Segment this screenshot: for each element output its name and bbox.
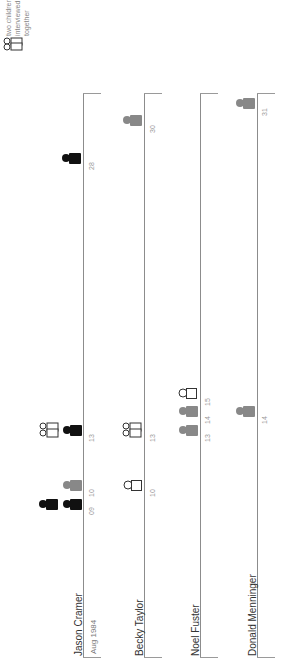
axis-becky — [144, 93, 145, 658]
axis-jason — [83, 93, 84, 658]
row-name-jason: Jason Cramer — [73, 593, 84, 656]
day-label: 13 — [204, 434, 211, 442]
person-gray-icon — [235, 405, 255, 417]
axis-tick — [257, 657, 275, 658]
axis-tick — [144, 657, 162, 658]
axis-tick — [200, 93, 218, 94]
person-gray-icon — [178, 405, 198, 417]
person-black-icon — [62, 498, 82, 510]
day-label: 10 — [88, 489, 95, 497]
day-label: 15 — [204, 398, 211, 406]
two-person-outline-icon — [39, 422, 59, 438]
axis-tick — [144, 93, 162, 94]
person-black-icon — [61, 152, 81, 164]
day-label: 14 — [261, 416, 268, 424]
day-label: 09 — [88, 507, 95, 515]
two-person-outline-icon — [122, 422, 142, 438]
row-name-donald: Donald Menninger — [247, 574, 258, 656]
axis-tick — [257, 93, 275, 94]
day-label: 28 — [88, 162, 95, 170]
person-gray-icon — [178, 424, 198, 436]
row-name-becky: Becky Taylor — [134, 599, 145, 656]
day-label: 10 — [149, 489, 156, 497]
two-person-outline-icon — [3, 37, 23, 51]
axis-noel — [200, 93, 201, 658]
person-outline-icon — [178, 387, 198, 399]
legend-line1: two children — [4, 0, 13, 36]
person-gray-icon — [62, 479, 82, 491]
day-label: 13 — [88, 434, 95, 442]
person-outline-icon — [123, 479, 143, 491]
day-label: 30 — [149, 125, 156, 133]
legend-line3: together — [22, 10, 31, 36]
person-gray-icon — [235, 97, 255, 109]
row-subtitle-date: Aug 1984 — [89, 620, 98, 654]
person-gray-icon — [122, 114, 142, 126]
axis-tick — [83, 93, 101, 94]
axis-tick — [200, 657, 218, 658]
day-label: 14 — [204, 416, 211, 424]
day-label: 31 — [261, 108, 268, 116]
day-label: 13 — [149, 434, 156, 442]
person-black-icon — [62, 424, 82, 436]
row-name-noel: Noel Fuster — [190, 604, 201, 656]
legend-line2: interviewed — [13, 1, 22, 36]
person-black-icon — [38, 498, 58, 510]
axis-tick — [83, 657, 101, 658]
